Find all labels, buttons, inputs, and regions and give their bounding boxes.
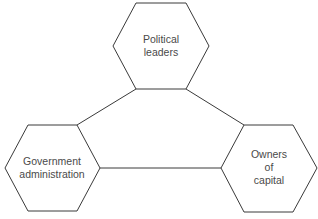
- edge-political-to-government: [77, 89, 136, 125]
- node-label-line: of: [265, 161, 274, 173]
- node-label-line: leaders: [144, 46, 178, 58]
- node-owners-of-capital: Owners of capital: [221, 125, 317, 212]
- node-label-line: Political: [143, 33, 179, 45]
- node-political-leaders: Political leaders: [113, 3, 209, 89]
- node-label-line: administration: [19, 168, 85, 180]
- edge-political-to-capital: [186, 89, 244, 125]
- triangle-hexagon-diagram: Political leaders Government administrat…: [0, 0, 318, 219]
- node-label-line: capital: [254, 174, 284, 186]
- node-label-line: Government: [23, 155, 81, 167]
- node-government-administration: Government administration: [5, 125, 100, 211]
- node-label-line: Owners: [251, 148, 287, 160]
